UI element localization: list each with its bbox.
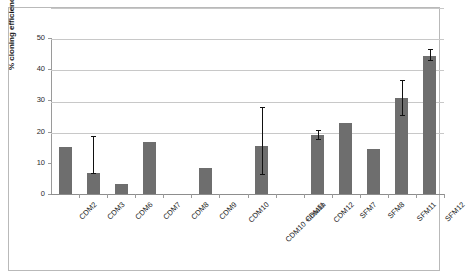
x-tick-mark: [163, 194, 164, 198]
y-tick-label: 50: [21, 34, 45, 42]
x-tick-mark: [444, 194, 445, 198]
y-tick-label: 10: [21, 159, 45, 167]
bar: [311, 135, 324, 194]
x-tick-mark: [219, 194, 220, 198]
y-tick-label: 20: [21, 128, 45, 136]
error-bar-cap: [400, 80, 405, 81]
error-bar: [430, 49, 431, 60]
chart-frame: % cloning efficiency 01020304050CDM2CDM3…: [8, 7, 440, 271]
x-tick-label: SFM7: [358, 200, 379, 221]
x-tick-mark: [79, 194, 80, 198]
gridline: [51, 70, 444, 71]
x-tick-label: SFM12: [443, 200, 466, 223]
x-tick-mark: [276, 194, 277, 198]
x-tick-label: CDM8: [190, 200, 211, 221]
error-bar: [402, 80, 403, 115]
y-axis-title: % cloning efficiency: [7, 0, 16, 70]
plot-area: [51, 38, 444, 194]
error-bar: [93, 136, 94, 173]
bar: [143, 142, 156, 194]
x-tick-mark: [416, 194, 417, 198]
y-tick-mark: [48, 132, 51, 133]
x-tick-label: CDM12: [331, 200, 355, 224]
y-tick-mark: [48, 194, 51, 195]
x-tick-label: CDM9: [218, 200, 239, 221]
error-bar-cap: [260, 174, 265, 175]
bar: [59, 147, 72, 194]
error-bar-cap: [91, 136, 96, 137]
bar: [199, 168, 212, 194]
y-tick-mark: [48, 163, 51, 164]
x-tick-mark: [388, 194, 389, 198]
y-tick-label: 0: [21, 190, 45, 198]
x-tick-label: CDM10: [247, 200, 271, 224]
x-tick-label: SFM11: [415, 200, 438, 223]
y-tick-mark: [48, 100, 51, 101]
x-tick-mark: [332, 194, 333, 198]
gridline: [51, 8, 444, 9]
bar: [115, 184, 128, 194]
bar: [423, 56, 436, 194]
x-tick-mark: [191, 194, 192, 198]
error-bar-cap: [428, 60, 433, 61]
x-tick-label: CDM11: [303, 200, 327, 224]
bar: [87, 173, 100, 194]
x-tick-label: CDM2: [77, 200, 98, 221]
error-bar-cap: [316, 130, 321, 131]
gridline: [51, 133, 444, 134]
error-bar: [318, 130, 319, 139]
y-tick-mark: [48, 38, 51, 39]
gridline: [51, 39, 444, 40]
error-bar-cap: [428, 49, 433, 50]
y-tick-label: 30: [21, 96, 45, 104]
x-tick-mark: [107, 194, 108, 198]
error-bar-cap: [260, 107, 265, 108]
error-bar: [262, 107, 263, 174]
x-tick-label: SFM8: [386, 200, 407, 221]
x-tick-mark: [135, 194, 136, 198]
x-tick-label: CDM7: [161, 200, 182, 221]
x-tick-mark: [360, 194, 361, 198]
x-tick-mark: [248, 194, 249, 198]
x-tick-label: CDM3: [105, 200, 126, 221]
y-tick-label: 40: [21, 65, 45, 73]
error-bar-cap: [400, 115, 405, 116]
error-bar-cap: [91, 173, 96, 174]
y-tick-mark: [48, 69, 51, 70]
bar: [339, 123, 352, 194]
error-bar-cap: [316, 139, 321, 140]
x-tick-label: CDM6: [133, 200, 154, 221]
x-tick-mark: [304, 194, 305, 198]
bar: [367, 149, 380, 194]
gridline: [51, 102, 444, 103]
